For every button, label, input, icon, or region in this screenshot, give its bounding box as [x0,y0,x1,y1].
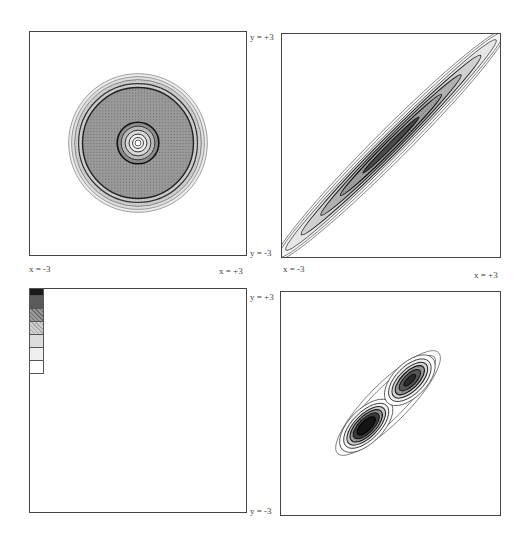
plot-panel-bottom-left [29,288,247,513]
legend-level-3 [29,309,44,322]
x-max-label-top-right: x = +3 [474,270,498,280]
legend-level-2 [29,296,44,309]
legend-level-4 [29,322,44,335]
y-max-label-top-left: y = +3 [250,32,274,42]
shading-legend [29,288,43,374]
x-min-label-top-right: x = -3 [283,264,305,274]
y-min-label-top-left: y = -3 [250,248,272,258]
legend-level-1 [29,288,44,296]
legend-level-7 [29,361,44,374]
legend-level-5 [29,335,44,348]
ring-contour-plot [30,32,246,255]
diagonal-ellipse-contour-plot [282,34,500,257]
y-min-label-bottom-left: y = -3 [250,506,272,516]
legend-level-6 [29,348,44,361]
plot-panel-bottom-right [280,291,501,516]
x-max-label-top-left: x = +3 [219,266,243,276]
plot-panel-top-right [281,33,501,258]
x-min-label-top-left: x = -3 [29,264,51,274]
bimodal-contour-plot [281,292,500,515]
y-max-label-bottom-left: y = +3 [250,292,274,302]
plot-panel-top-left [29,31,247,256]
